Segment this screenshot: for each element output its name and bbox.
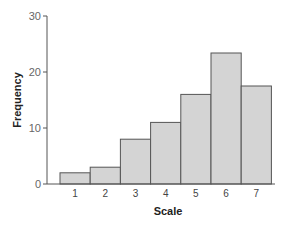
bar-3 (120, 139, 150, 184)
bars-group (60, 53, 271, 184)
y-tick-label: 30 (29, 10, 41, 22)
x-tick-label: 2 (103, 188, 109, 199)
bar-4 (151, 122, 181, 184)
histogram-chart: 0102030 1234567 Scale Frequency (0, 0, 295, 227)
y-ticks-group: 0102030 (29, 10, 47, 190)
x-tick-label: 4 (163, 188, 169, 199)
x-tick-label: 5 (193, 188, 199, 199)
bar-6 (211, 53, 241, 184)
bar-5 (181, 94, 211, 184)
x-tick-label: 1 (72, 188, 78, 199)
x-axis-label: Scale (154, 205, 183, 217)
bar-1 (60, 173, 90, 184)
bar-7 (241, 86, 271, 184)
x-ticks-group: 1234567 (72, 188, 259, 199)
y-tick-label: 0 (35, 178, 41, 190)
bar-2 (90, 167, 120, 184)
chart-canvas: 0102030 1234567 Scale Frequency (0, 0, 295, 227)
y-axis-label: Frequency (11, 71, 23, 128)
x-tick-label: 3 (133, 188, 139, 199)
y-tick-label: 10 (29, 122, 41, 134)
x-tick-label: 7 (254, 188, 260, 199)
y-tick-label: 20 (29, 66, 41, 78)
x-tick-label: 6 (223, 188, 229, 199)
